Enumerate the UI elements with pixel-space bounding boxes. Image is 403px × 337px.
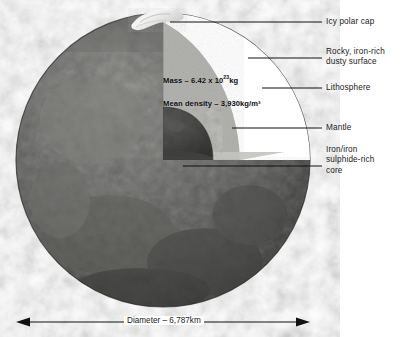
- annotation-mass-suffix: kg: [229, 76, 238, 85]
- diameter-label: Diameter – 6,787km: [124, 316, 204, 325]
- callout-label-icy-polar-cap: Icy polar cap: [326, 17, 375, 27]
- arrow-head-left: [16, 318, 30, 327]
- annotation-mass-prefix: Mass – 6.42 x 10: [163, 76, 223, 85]
- annotation-mean-density: Mean density – 3,930kg/m³: [163, 99, 261, 108]
- arrow-head-right: [296, 318, 310, 327]
- annotation-mass: Mass – 6.42 x 1023kg: [163, 74, 238, 85]
- callout-label-rocky-surface: Rocky, iron-rich dusty surface: [326, 47, 385, 68]
- callout-label-core: Iron/iron sulphide-rich core: [326, 145, 375, 176]
- callout-label-mantle: Mantle: [326, 123, 352, 133]
- callout-label-lithosphere: Lithosphere: [326, 83, 371, 93]
- mars-cutaway-figure: Icy polar cap Rocky, iron-rich dusty sur…: [0, 0, 403, 337]
